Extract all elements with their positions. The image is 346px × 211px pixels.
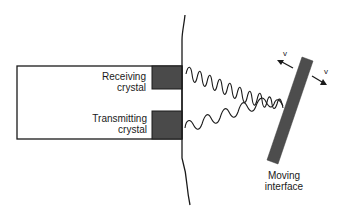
transmitting-crystal-label-line1: Transmitting bbox=[92, 113, 147, 124]
skin-surface bbox=[182, 15, 190, 205]
velocity-arrow-away bbox=[312, 76, 327, 85]
receiving-crystal bbox=[152, 66, 182, 89]
receiving-crystal-label: Receiving crystal bbox=[102, 71, 146, 93]
moving-interface bbox=[267, 57, 313, 164]
transmitting-crystal bbox=[152, 111, 182, 139]
reflected-wave bbox=[186, 67, 283, 108]
receiving-crystal-label-line1: Receiving bbox=[102, 71, 146, 82]
velocity-arrow-toward bbox=[277, 60, 293, 68]
moving-interface-label-line2: interface bbox=[256, 181, 312, 192]
moving-interface-label-line1: Moving bbox=[256, 170, 312, 181]
moving-interface-label: Moving interface bbox=[256, 170, 312, 192]
transmitting-crystal-label: Transmitting crystal bbox=[92, 113, 147, 135]
transmitting-crystal-label-line2: crystal bbox=[92, 124, 147, 135]
receiving-crystal-label-line2: crystal bbox=[102, 82, 146, 93]
velocity-label-toward: v bbox=[283, 50, 287, 58]
velocity-label-away: v bbox=[324, 68, 328, 76]
transmitted-wave bbox=[185, 98, 283, 129]
